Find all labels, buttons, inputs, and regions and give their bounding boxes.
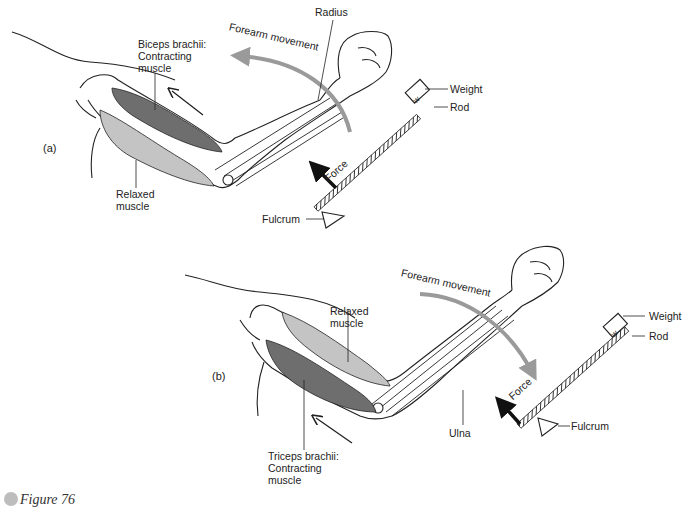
fulcrum-triangle-a xyxy=(322,212,344,228)
arm-lever-diagram xyxy=(0,0,693,510)
contraction-arrow-b xyxy=(316,418,352,443)
label-biceps-brachii: Biceps brachii: Contracting muscle xyxy=(138,38,206,74)
lever-rod-a xyxy=(314,114,421,211)
label-radius: Radius xyxy=(315,6,348,18)
panel-a-tag: (a) xyxy=(43,142,56,154)
label-ulna: Ulna xyxy=(449,427,471,439)
caption-bullet-icon xyxy=(4,492,18,506)
label-triceps-brachii: Triceps brachii: Contracting muscle xyxy=(268,450,339,486)
fulcrum-triangle-b xyxy=(538,418,558,436)
label-relaxed-muscle-a: Relaxed muscle xyxy=(116,188,155,212)
contraction-arrow-a xyxy=(172,91,203,115)
label-rod-b: Rod xyxy=(649,330,668,342)
forearm-movement-arrow-a xyxy=(240,56,350,132)
label-relaxed-muscle-b: Relaxed muscle xyxy=(330,305,369,329)
force-arrow-b xyxy=(502,404,520,424)
label-weight-a: Weight xyxy=(450,83,483,95)
label-fulcrum-b: Fulcrum xyxy=(571,420,609,432)
label-fulcrum-a: Fulcrum xyxy=(262,213,300,225)
forearm-movement-arrow-b xyxy=(420,294,532,372)
panel-b-tag: (b) xyxy=(212,370,225,382)
lever-rod-b xyxy=(517,327,629,428)
label-weight-b: Weight xyxy=(649,310,682,322)
label-rod-a: Rod xyxy=(450,101,469,113)
figure-caption: Figure 76 xyxy=(4,492,75,508)
